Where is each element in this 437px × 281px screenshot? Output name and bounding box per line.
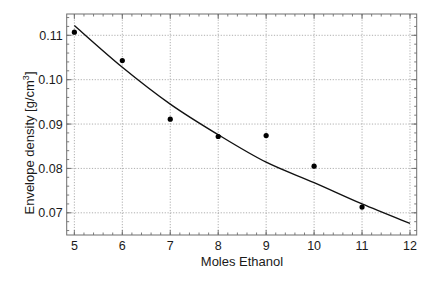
gridlines (67, 14, 417, 235)
x-tick-label: 8 (215, 239, 222, 253)
x-tick-label: 10 (307, 239, 321, 253)
data-point (311, 164, 316, 169)
y-axis-label-end: ] (22, 71, 37, 75)
x-tick-label: 11 (356, 239, 369, 253)
x-tick-labels: 56789101112 (71, 239, 417, 253)
plot-frame (67, 14, 417, 235)
y-tick-label: 0.11 (39, 29, 62, 43)
x-tick-label: 7 (167, 239, 174, 253)
y-axis-label-main: Envelope density [g/cm (22, 80, 37, 214)
y-tick-label: 0.08 (38, 162, 62, 176)
x-axis-label: Moles Ethanol (201, 254, 283, 269)
data-point (216, 134, 221, 139)
data-point (359, 204, 364, 209)
y-axis-label: Envelope density [g/cm3] (21, 71, 37, 214)
y-tick-label: 0.07 (38, 206, 62, 220)
data-point (264, 133, 269, 138)
y-tick-label: 0.09 (38, 118, 62, 132)
y-tick-label: 0.10 (38, 73, 62, 87)
data-point (72, 30, 77, 35)
x-tick-label: 9 (263, 239, 270, 253)
data-point (120, 58, 125, 63)
x-tick-label: 6 (119, 239, 126, 253)
y-tick-labels: 0.070.080.090.100.11 (38, 29, 62, 221)
chart: 56789101112 0.070.080.090.100.11 Moles E… (0, 0, 437, 281)
fit-curve (74, 26, 410, 224)
data-point (168, 117, 173, 122)
x-tick-label: 12 (403, 239, 417, 253)
x-tick-label: 5 (71, 239, 78, 253)
axis-ticks (67, 14, 417, 235)
